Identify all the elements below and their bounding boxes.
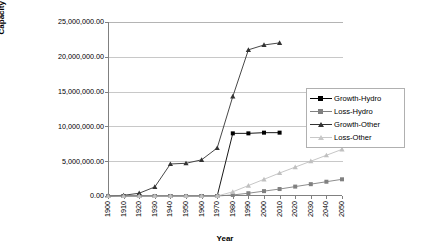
x-axis-tick-label: 2020 <box>291 201 298 217</box>
x-axis-tick-mark <box>139 196 140 199</box>
x-axis-tick-mark <box>170 196 171 199</box>
y-axis-title: Capacity (1000m3) <box>0 0 6 60</box>
legend-label-growth-hydro: Growth-Hydro <box>334 94 381 103</box>
chart-legend: Growth-Hydro Loss-Hydro Growth-Other Los… <box>306 88 405 148</box>
legend-label-loss-hydro: Loss-Hydro <box>334 107 373 116</box>
y-axis-title-base: Capacity (1000m <box>0 0 6 34</box>
legend-item-growth-other[interactable]: Growth-Other <box>310 118 400 131</box>
x-axis-tick-label: 1900 <box>104 201 111 217</box>
gridline <box>109 57 343 58</box>
x-axis-tick-mark <box>186 196 187 199</box>
y-axis-tick-label: 15,000,000.00 <box>0 88 104 95</box>
x-axis-tick-mark <box>233 196 234 199</box>
legend-marker-loss-hydro <box>310 107 332 116</box>
y-axis-tick-label: 0.00 <box>0 192 104 199</box>
y-axis-tick-label: 20,000,000.00 <box>0 53 104 60</box>
x-axis-tick-mark <box>155 196 156 199</box>
x-axis-tick-mark <box>326 196 327 199</box>
x-axis-tick-mark <box>295 196 296 199</box>
x-axis-tick-mark <box>124 196 125 199</box>
x-axis-tick-mark <box>280 196 281 199</box>
x-axis-tick-mark <box>108 196 109 199</box>
y-axis-tick-label: 10,000,000.00 <box>0 123 104 130</box>
x-axis-tick-label: 1940 <box>166 201 173 217</box>
capacity-line-chart: Capacity (1000m3) 0.005,000,000.0010,000… <box>0 0 433 251</box>
x-axis-tick-mark <box>342 196 343 199</box>
gridline <box>109 161 343 162</box>
legend-item-loss-hydro[interactable]: Loss-Hydro <box>310 105 400 118</box>
legend-label-growth-other: Growth-Other <box>334 120 380 129</box>
y-axis-tick-label: 25,000,000.00 <box>0 18 104 25</box>
x-axis-tick-label: 2050 <box>338 201 345 217</box>
x-axis-tick-label: 1990 <box>244 201 251 217</box>
x-axis-tick-label: 1910 <box>120 201 127 217</box>
y-axis-tick-label: 5,000,000.00 <box>0 158 104 165</box>
x-axis-tick-label: 2010 <box>276 201 283 217</box>
x-axis-tick-mark <box>217 196 218 199</box>
x-axis-tick-label: 1930 <box>151 201 158 217</box>
x-axis-tick-mark <box>311 196 312 199</box>
legend-marker-loss-other <box>310 133 332 142</box>
x-axis-tick-mark <box>202 196 203 199</box>
gridline <box>109 22 343 23</box>
legend-label-loss-other: Loss-Other <box>334 133 372 142</box>
x-axis-tick-label: 2030 <box>307 201 314 217</box>
legend-item-growth-hydro[interactable]: Growth-Hydro <box>310 92 400 105</box>
x-axis-tick-mark <box>248 196 249 199</box>
x-axis-tick-label: 1970 <box>213 201 220 217</box>
x-axis-tick-label: 1980 <box>229 201 236 217</box>
x-axis-tick-label: 1950 <box>182 201 189 217</box>
x-axis-tick-label: 1960 <box>198 201 205 217</box>
x-axis-tick-label: 2000 <box>260 201 267 217</box>
legend-marker-growth-hydro <box>310 94 332 103</box>
x-axis-tick-label: 1920 <box>135 201 142 217</box>
legend-item-loss-other[interactable]: Loss-Other <box>310 131 400 144</box>
legend-marker-growth-other <box>310 120 332 129</box>
x-axis-tick-label: 2040 <box>322 201 329 217</box>
x-axis-title: Year <box>108 234 342 243</box>
x-axis-tick-mark <box>264 196 265 199</box>
